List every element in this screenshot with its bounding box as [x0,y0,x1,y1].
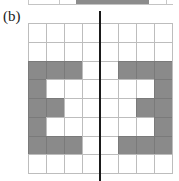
grid-cell-filled [154,98,172,117]
grid-cell-empty [100,61,118,80]
grid-cell-filled [64,136,82,155]
grid-cell-filled [154,117,172,136]
grid-cell-empty [118,154,136,173]
grid-cell-filled [46,136,64,155]
grid-cell-empty [64,79,82,98]
grid-cell-empty [136,42,154,61]
grid-cell-empty [82,154,100,173]
grid-cell-filled [154,79,172,98]
grid-cell-filled [28,61,46,80]
grid-cell-empty [118,98,136,117]
grid-cell-filled [154,61,172,80]
grid-cell-empty [100,117,118,136]
grid-cell-filled [118,136,136,155]
grid-cell-empty [136,154,154,173]
grid-cell-filled [28,98,46,117]
grid-cell-empty [82,136,100,155]
grid-cell-empty [46,117,64,136]
panel-a-gridline [166,0,167,4]
grid-cell-empty [100,79,118,98]
grid-cell-filled [154,136,172,155]
symmetry-axis-line [99,11,101,181]
grid-cell-filled [136,136,154,155]
grid-cell-empty [82,61,100,80]
grid-cell-empty [28,23,46,42]
grid-cell-empty [28,154,46,173]
grid-cell-filled [28,79,46,98]
grid-cell-empty [46,23,64,42]
grid-cell-empty [46,79,64,98]
grid-cell-empty [64,154,82,173]
grid-cell-empty [82,42,100,61]
grid-cell-filled [136,61,154,80]
grid-cell-filled [64,61,82,80]
grid-cell-empty [82,23,100,42]
grid-cell-empty [46,42,64,61]
grid-cell-empty [28,42,46,61]
grid-cell-empty [46,154,64,173]
grid-cell-empty [118,42,136,61]
grid-cell-empty [154,23,172,42]
grid-cell-empty [100,98,118,117]
grid-cell-empty [64,117,82,136]
grid-cell-empty [136,23,154,42]
grid-cell-empty [118,117,136,136]
grid-cell-empty [100,23,118,42]
panel-a-gridline [28,0,29,4]
panel-a-bottom-strip [28,0,173,5]
grid-cell-filled [46,98,64,117]
grid-cell-empty [64,98,82,117]
grid-cell-filled [46,61,64,80]
grid-cell-empty [82,79,100,98]
grid-cell-empty [100,42,118,61]
grid-cell-empty [154,42,172,61]
grid-cell-empty [100,154,118,173]
grid-cell-empty [118,79,136,98]
panel-label: (b) [3,8,21,24]
grid-cell-filled [28,136,46,155]
grid-cell-empty [82,98,100,117]
grid-cell-empty [118,23,136,42]
grid-cell-empty [136,79,154,98]
grid-cell-empty [82,117,100,136]
grid-cell-empty [154,154,172,173]
grid-cell-empty [64,42,82,61]
grid-cell-empty [64,23,82,42]
panel-a-gridline [59,0,60,4]
grid-cell-empty [136,117,154,136]
grid-cell-filled [118,61,136,80]
grid-cell-filled [136,98,154,117]
panel-a-filled-band [76,0,149,4]
grid-cell-empty [100,136,118,155]
grid-cell-filled [28,117,46,136]
